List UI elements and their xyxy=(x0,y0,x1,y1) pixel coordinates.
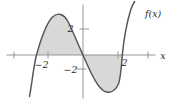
x-axis-name-label: x xyxy=(160,50,166,61)
figure-container: 2 −2 −2 2 x f(x) xyxy=(0,0,175,102)
y-axis-label-positive-two: 2 xyxy=(66,23,73,34)
shaded-regions xyxy=(37,14,123,92)
x-axis-label-negative-two: −2 xyxy=(34,59,48,70)
function-name-label: f(x) xyxy=(144,8,162,19)
y-axis-label-negative-two: −2 xyxy=(63,64,77,75)
x-axis-label-positive-two: 2 xyxy=(120,57,127,68)
function-graph: 2 −2 −2 2 x f(x) xyxy=(0,0,175,102)
